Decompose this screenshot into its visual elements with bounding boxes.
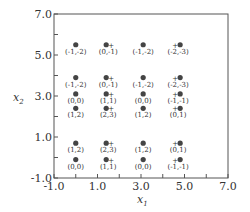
scatter-chart: -1.01.03.05.07.0-1.01.03.05.07.0 (-1,-2)… [0,0,250,212]
data-point: (-1,-2) [133,75,155,89]
point-label: (-1,-2) [133,81,155,89]
point-label: (-1,-2) [65,48,87,56]
point-marker [178,157,183,162]
point-marker [178,91,183,96]
data-point: +(0,1) [170,140,187,154]
point-label: (0,0) [67,97,84,105]
point-label: (1,2) [135,146,152,154]
point-marker [178,75,183,80]
y-axis-label: x2 [13,91,24,106]
point-marker [73,141,78,146]
point-label: (1,1) [100,163,117,171]
x-tick-label: 5.0 [176,180,194,193]
axis-tick-labels: -1.01.03.05.07.0-1.01.03.05.07.0 [31,8,237,193]
point-label: (-1,-2) [65,81,87,89]
point-label: (0,-1) [99,48,118,56]
data-point: +(1,1) [100,157,117,171]
point-label: (-1,-1) [167,97,189,105]
data-point: (0,0) [67,91,84,105]
y-tick-label: 5.0 [35,49,53,62]
point-marker [178,106,183,111]
data-point: (1,2) [135,141,152,155]
point-marker [73,91,78,96]
data-point: (1,2) [67,106,84,120]
x-tick-label: 3.0 [132,180,150,193]
data-point: (-1,-2) [65,42,87,56]
point-label: (1,2) [67,111,84,119]
data-point: +(2,3) [100,105,117,119]
data-point: +(-1,-1) [167,157,189,171]
point-label: (0,0) [135,97,152,105]
y-tick-label: -1.0 [31,172,52,185]
point-label: (-1,-2) [133,48,155,56]
data-points: (-1,-2)+(0,-1)(-1,-2)+(-2,-3)(-1,-2)+(0,… [65,42,189,171]
data-point: +(-2,-3) [167,75,189,89]
point-label: (0,1) [170,111,187,119]
point-label: (2,3) [100,146,117,154]
point-label: (1,1) [100,97,117,105]
data-point: (0,0) [67,157,84,171]
point-marker [73,42,78,47]
point-label: (0,1) [170,146,187,154]
point-label: (2,3) [100,111,117,119]
data-point: +(-2,-3) [167,42,189,56]
y-tick-label: 3.0 [35,90,53,103]
data-point: +(0,-1) [99,75,118,89]
point-label: (0,0) [135,163,152,171]
data-point: +(1,1) [100,91,117,105]
point-label: (0,-1) [99,81,118,89]
point-marker [178,141,183,146]
point-label: (1,2) [67,146,84,154]
data-point: +(2,3) [100,140,117,154]
point-marker [141,106,146,111]
point-label: (-2,-3) [167,81,189,89]
point-label: (1,2) [135,111,152,119]
point-label: (-1,-1) [167,163,189,171]
y-tick-label: 7.0 [35,8,53,21]
data-point: +(0,1) [170,105,187,119]
point-label: (-2,-3) [167,48,189,56]
point-marker [73,157,78,162]
point-marker [178,42,183,47]
point-marker [141,75,146,80]
point-marker [141,141,146,146]
y-tick-label: 1.0 [35,131,53,144]
data-point: (-1,-2) [133,42,155,56]
data-point: +(0,-1) [99,42,118,56]
data-point: (0,0) [135,91,152,105]
data-point: (1,2) [67,141,84,155]
point-marker [141,157,146,162]
x-tick-label: 7.0 [219,180,237,193]
data-point: +(-1,-1) [167,91,189,105]
x-tick-label: 1.0 [89,180,107,193]
x-axis-label: x1 [137,193,148,208]
point-marker [141,42,146,47]
data-point: (-1,-2) [65,75,87,89]
data-point: (1,2) [135,106,152,120]
point-marker [73,75,78,80]
data-point: (0,0) [135,157,152,171]
point-label: (0,0) [67,163,84,171]
point-marker [73,106,78,111]
point-marker [141,91,146,96]
